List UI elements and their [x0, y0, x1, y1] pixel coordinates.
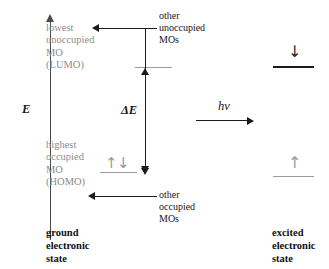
lumo-label: lowest unoccupied MO (LUMO): [46, 22, 94, 72]
other-occupied-arrowhead: [88, 192, 95, 200]
other-occupied-leader-line: [135, 196, 157, 197]
delta-e-label: ΔE: [121, 103, 137, 118]
photon-arrow-shaft: [196, 120, 248, 121]
other-occupied-drop-arrowhead: [141, 168, 149, 175]
energy-axis-label: E: [22, 102, 30, 117]
photon-arrowhead: [247, 117, 254, 125]
photon-label: hν: [218, 99, 230, 114]
other-occupied-drop-line: [145, 28, 146, 173]
other-occupied-mos-label: other occupied MOs: [159, 189, 195, 224]
excited-upper-electron: ↓: [288, 44, 301, 60]
mo-energy-diagram: E lowest unoccupied MO (LUMO) highest oc…: [0, 0, 329, 269]
other-occupied-arrow-shaft: [95, 196, 137, 197]
other-unoccupied-arrowhead: [92, 24, 99, 32]
homo-electron-pair: ↑↓: [105, 156, 129, 171]
ground-state-caption: ground electronic state: [46, 226, 90, 265]
excited-upper-level-line: [273, 66, 314, 68]
homo-level-line: [100, 172, 137, 173]
excited-lower-electron: ↑: [288, 155, 301, 171]
other-unoccupied-mos-label: other unoccupied MOs: [159, 10, 205, 45]
energy-axis-arrowhead: [46, 14, 54, 22]
homo-label: highest occupied MO (HOMO): [46, 139, 85, 189]
other-unoccupied-leader-line: [135, 28, 157, 29]
other-unoccupied-arrow-shaft: [99, 28, 137, 29]
excited-lower-level-line: [273, 176, 314, 177]
excited-state-caption: excited electronic state: [272, 226, 316, 265]
